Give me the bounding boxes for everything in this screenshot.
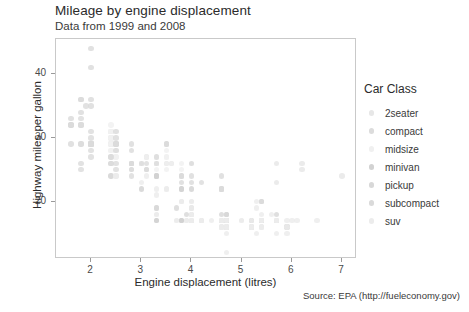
data-point	[189, 186, 195, 192]
scatter-chart: Mileage by engine displacement Data from…	[0, 0, 469, 312]
data-point	[139, 161, 145, 167]
data-point	[78, 161, 84, 167]
data-point	[113, 161, 119, 167]
y-axis-title: Highway miles per gallon	[31, 45, 43, 245]
data-point	[108, 141, 114, 147]
data-point	[154, 154, 160, 160]
data-point	[259, 224, 265, 230]
legend-item-pickup[interactable]: pickup	[364, 177, 467, 193]
x-tick-label: 6	[279, 264, 303, 275]
data-point	[189, 212, 195, 218]
data-point	[108, 129, 114, 135]
data-point	[88, 141, 94, 147]
legend-item-2seater[interactable]: 2seater	[364, 105, 467, 121]
data-point	[274, 218, 280, 224]
data-point	[154, 192, 160, 198]
data-point	[129, 167, 135, 173]
data-point	[189, 218, 195, 224]
data-point	[259, 199, 265, 205]
legend-item-label: minivan	[385, 162, 419, 173]
data-point	[224, 218, 230, 224]
data-point	[154, 161, 160, 167]
data-point	[108, 161, 114, 167]
data-point	[113, 141, 119, 147]
data-point	[154, 205, 160, 211]
data-point	[259, 218, 265, 224]
data-point	[249, 224, 255, 230]
data-point	[139, 161, 145, 167]
data-point	[274, 218, 280, 224]
legend-item-midsize[interactable]: midsize	[364, 141, 467, 157]
legend-items: 2seatercompactmidsizeminivanpickupsubcom…	[364, 105, 467, 229]
data-point	[284, 224, 290, 230]
data-point	[179, 161, 185, 167]
data-point	[108, 161, 114, 167]
data-point	[184, 212, 190, 218]
data-point	[189, 218, 195, 224]
data-point	[113, 167, 119, 173]
y-tick-mark	[51, 137, 55, 138]
data-point	[88, 141, 94, 147]
data-point	[83, 103, 89, 109]
data-point	[88, 141, 94, 147]
data-point	[224, 250, 230, 256]
data-point	[179, 199, 185, 205]
data-point	[139, 161, 145, 167]
data-point	[68, 141, 74, 147]
data-point	[179, 173, 185, 179]
data-point	[129, 161, 135, 167]
data-point	[88, 97, 94, 103]
data-point	[249, 224, 255, 230]
legend-item-compact[interactable]: compact	[364, 123, 467, 139]
legend-item-suv[interactable]: suv	[364, 213, 467, 229]
data-point	[179, 199, 185, 205]
legend-item-label: subcompact	[385, 198, 439, 209]
data-point	[179, 218, 185, 224]
x-tick-mark	[241, 258, 242, 262]
data-point	[219, 218, 225, 224]
data-point	[224, 218, 230, 224]
data-point	[154, 154, 160, 160]
data-point	[154, 173, 160, 179]
data-point	[219, 224, 225, 230]
data-point	[108, 141, 114, 147]
data-point	[164, 148, 170, 154]
data-point	[224, 224, 230, 230]
legend-dot-icon	[369, 164, 375, 170]
data-point	[129, 161, 135, 167]
data-point	[144, 167, 150, 173]
legend-item-minivan[interactable]: minivan	[364, 159, 467, 175]
data-point	[154, 161, 160, 167]
data-point	[189, 212, 195, 218]
data-point	[88, 141, 94, 147]
data-point	[129, 161, 135, 167]
legend-item-label: pickup	[385, 180, 414, 191]
data-point	[78, 141, 84, 147]
data-point	[113, 154, 119, 160]
data-point	[129, 141, 135, 147]
legend-item-label: suv	[385, 216, 401, 227]
data-point	[224, 224, 230, 230]
data-point	[189, 199, 195, 205]
plot-panel	[55, 38, 356, 258]
data-point	[113, 141, 119, 147]
x-tick-mark	[291, 258, 292, 262]
data-point	[189, 205, 195, 211]
x-tick-label: 2	[78, 264, 102, 275]
x-tick-mark	[140, 258, 141, 262]
data-point	[189, 212, 195, 218]
data-point	[88, 129, 94, 135]
data-point	[108, 148, 114, 154]
data-point	[284, 218, 290, 224]
data-point	[144, 161, 150, 167]
data-point	[154, 186, 160, 192]
data-point	[274, 218, 280, 224]
data-point	[88, 103, 94, 109]
data-point	[113, 173, 119, 179]
data-point	[164, 154, 170, 160]
data-point	[274, 231, 280, 237]
data-point	[224, 212, 230, 218]
data-point	[139, 161, 145, 167]
legend-item-subcompact[interactable]: subcompact	[364, 195, 467, 211]
data-point	[154, 173, 160, 179]
